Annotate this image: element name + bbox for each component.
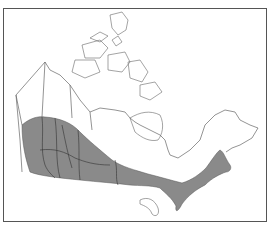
canada-map (0, 0, 273, 233)
hudson-bay (130, 112, 163, 140)
great-lakes (140, 198, 159, 215)
range-region (22, 117, 231, 211)
arctic-islands (72, 12, 162, 100)
